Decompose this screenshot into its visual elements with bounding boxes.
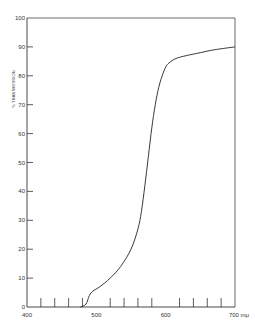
y-tick-label: 50 [18,160,25,166]
y-tick-label: 20 [18,246,25,252]
x-tick-label: 500 [91,312,102,318]
y-tick-label: 10 [18,275,25,281]
transmission-chart: 0102030405060708090100 400500600700 mμ %… [0,0,255,327]
x-axis-ticks: 400500600700 mμ [22,298,250,318]
y-tick-label: 90 [18,44,25,50]
y-axis-ticks: 0102030405060708090100 [15,15,33,310]
x-tick-label: 700 mμ [229,312,250,318]
y-tick-label: 60 [18,131,25,137]
y-tick-label: 80 [18,73,25,79]
y-axis-label: % TRANSMISSION [11,70,16,108]
x-tick-label: 600 [161,312,172,318]
y-tick-label: 70 [18,102,25,108]
transmission-curve [80,47,235,307]
y-tick-label: 30 [18,217,25,223]
y-tick-label: 0 [22,304,26,310]
plot-frame [27,18,235,307]
x-tick-label: 400 [22,312,33,318]
y-tick-label: 100 [15,15,26,21]
y-tick-label: 40 [18,188,25,194]
